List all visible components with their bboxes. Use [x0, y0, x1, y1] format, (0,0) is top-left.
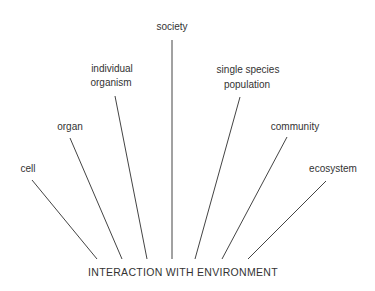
levels-of-organization-diagram: cell organ individual organism society s… [0, 0, 375, 291]
base-label: INTERACTION WITH ENVIRONMENT [88, 266, 278, 278]
label-individual-organism-line2: organism [90, 77, 131, 88]
ray-organ [70, 138, 122, 259]
ray-cell [32, 180, 97, 259]
label-individual-organism-line1: individual [91, 63, 133, 74]
ray-single-species-population [195, 97, 240, 259]
label-cell: cell [20, 163, 35, 174]
label-ecosystem: ecosystem [309, 163, 357, 174]
ray-ecosystem [248, 181, 326, 259]
label-organ: organ [57, 121, 83, 132]
ray-community [222, 137, 287, 259]
ray-individual-organism [115, 96, 147, 259]
label-society: society [156, 21, 187, 32]
label-single-species-population-line2: population [224, 79, 270, 90]
label-community: community [271, 121, 319, 132]
label-single-species-population-line1: single species [217, 64, 280, 75]
